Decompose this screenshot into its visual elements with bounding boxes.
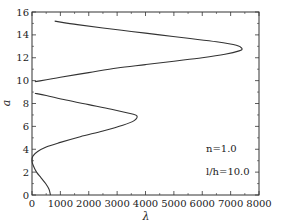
y-tick-label: 4 <box>23 144 29 155</box>
x-tick-label: 4000 <box>133 198 158 209</box>
x-tick-labels: 010002000300040005000600070008000 <box>29 198 272 209</box>
y-tick-label: 2 <box>23 167 29 178</box>
x-tick-label: 7000 <box>218 198 243 209</box>
x-tick-label: 3000 <box>104 198 129 209</box>
y-tick-label: 0 <box>23 190 29 201</box>
chart: 010002000300040005000600070008000 024681… <box>0 0 288 224</box>
series-line-branch-2 <box>35 21 242 82</box>
y-tick-label: 8 <box>23 98 29 109</box>
x-tick-label: 0 <box>29 198 35 209</box>
x-tick-label: 6000 <box>190 198 215 209</box>
y-tick-label: 12 <box>16 52 29 63</box>
y-axis-label: a <box>0 100 13 107</box>
series-line-branch-1 <box>32 93 137 195</box>
x-tick-label: 8000 <box>246 198 271 209</box>
y-tick-label: 16 <box>16 7 29 18</box>
x-axis-label: λ <box>142 210 150 223</box>
y-tick-labels: 0246810121416 <box>16 7 29 201</box>
y-tick-label: 14 <box>16 29 29 40</box>
x-tick-label: 2000 <box>76 198 101 209</box>
annotation-n: n=1.0 <box>206 143 237 154</box>
y-tick-label: 10 <box>16 75 29 86</box>
y-tick-label: 6 <box>23 121 29 132</box>
x-tick-label: 5000 <box>161 198 186 209</box>
annotation-l-over-h: l/h=10.0 <box>206 166 250 177</box>
x-tick-label: 1000 <box>48 198 73 209</box>
